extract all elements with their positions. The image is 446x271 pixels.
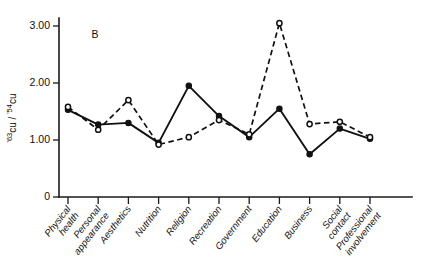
data-point [216,117,221,122]
chart-figure: 01.002.003.00'63cu / '54cuBPhysicalhealt… [0,0,446,271]
y-axis-tick-label: 0 [44,190,50,202]
panel-label: B [91,28,98,40]
series-group [65,21,372,157]
data-point [307,121,312,126]
axes-group: 01.002.003.00 [30,18,412,204]
x-axis-label: Physicalhealth [42,203,82,245]
x-axis-label: Business [282,203,315,241]
data-point [277,106,282,111]
data-point [65,104,70,109]
data-point [337,119,342,124]
data-point [186,135,191,140]
data-point [156,142,161,147]
data-point [367,135,372,140]
data-point [126,98,131,103]
series-line-dashed-open [68,23,370,144]
data-point [247,132,252,137]
line-chart: 01.002.003.00'63cu / '54cuBPhysicalhealt… [0,0,446,271]
x-axis-labels-group: PhysicalhealthPersonalappearanceAestheti… [42,203,384,259]
y-axis-tick-label: 2.00 [30,76,51,88]
data-point [96,127,101,132]
x-axis-label: Education [249,203,284,243]
x-axis-label-line: Business [282,203,315,241]
x-axis-label-line: Religion [163,203,193,237]
y-axis-title: '63cu / '54cu [5,93,19,142]
data-point [126,120,131,125]
x-axis-label-line: Education [249,203,284,243]
data-point [307,152,312,157]
x-axis-label-line: Nutrition [133,203,164,238]
y-axis-tick-label: 1.00 [30,133,51,145]
y-axis-tick-label: 3.00 [30,19,51,31]
data-point [277,21,282,26]
data-point [337,126,342,131]
x-axis-label: Nutrition [133,203,164,238]
x-axis-label: Religion [163,203,193,237]
data-point [186,83,191,88]
